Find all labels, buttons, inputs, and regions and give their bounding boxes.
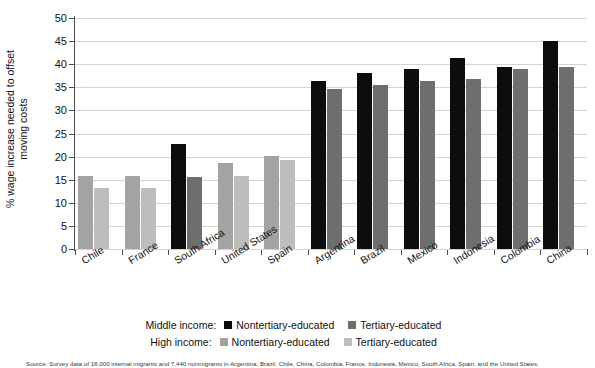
x-axis-tick-mark	[308, 250, 309, 255]
plot-area	[75, 18, 587, 249]
bar	[311, 81, 326, 249]
y-axis-tick-mark	[69, 226, 74, 227]
y-axis-tick-mark	[69, 249, 74, 250]
chart-container: % wage increase needed to offset moving …	[0, 0, 595, 368]
bar-group	[401, 18, 448, 249]
y-axis-tick-mark	[69, 87, 74, 88]
y-axis-tick-mark	[69, 18, 74, 19]
y-axis-tick-label: 25	[45, 128, 67, 140]
bar	[125, 176, 140, 249]
y-axis-tick-label: 35	[45, 81, 67, 93]
legend-swatch-icon	[224, 321, 232, 329]
bar	[327, 89, 342, 249]
bar-group	[494, 18, 541, 249]
x-axis-tick-mark	[540, 250, 541, 255]
legend-item: Nontertiary-educated	[220, 336, 330, 348]
y-axis-tick-label: 50	[45, 12, 67, 24]
y-axis-title-line-1: % wage increase needed to offset	[4, 50, 17, 208]
y-axis-tick-mark	[69, 203, 74, 204]
legend-item: Tertiary-educated	[344, 336, 437, 348]
legend-row: Middle income:Nontertiary-educatedTertia…	[0, 316, 595, 333]
bar	[280, 160, 295, 249]
y-axis-title-line-2: moving costs	[17, 50, 30, 208]
bar	[404, 69, 419, 249]
bar-group	[540, 18, 587, 249]
y-axis-tick-labels: 05101520253035404550	[41, 0, 67, 368]
bar	[78, 176, 93, 249]
y-axis-tick-mark	[69, 41, 74, 42]
legend-item: Nontertiary-educated	[224, 319, 334, 331]
y-axis-tick-label: 10	[45, 197, 67, 209]
bar	[466, 79, 481, 249]
bar	[543, 41, 558, 249]
x-axis-tick-mark	[447, 250, 448, 255]
legend-item-label: Tertiary-educated	[356, 336, 437, 348]
legend-swatch-icon	[220, 338, 228, 346]
legend-item-label: Nontertiary-educated	[236, 319, 334, 331]
bar-group	[308, 18, 355, 249]
y-axis-tick-mark	[69, 110, 74, 111]
y-axis-tick-mark	[69, 134, 74, 135]
x-axis-tick-mark	[168, 250, 169, 255]
x-axis-tick-mark	[401, 250, 402, 255]
legend-row-title: Middle income:	[146, 319, 217, 331]
legend-row: High income:Nontertiary-educatedTertiary…	[0, 333, 595, 350]
bar	[171, 144, 186, 249]
x-axis-tick-mark	[75, 250, 76, 255]
y-axis-tick-label: 45	[45, 35, 67, 47]
legend-item-label: Nontertiary-educated	[232, 336, 330, 348]
bar	[420, 81, 435, 249]
y-axis-tick-mark	[69, 64, 74, 65]
legend-swatch-icon	[344, 338, 352, 346]
y-axis-tick-label: 15	[45, 174, 67, 186]
footnote: Source: Survey data of 18,000 internal m…	[26, 360, 586, 368]
legend-item: Tertiary-educated	[348, 319, 441, 331]
legend-row-title: High income:	[150, 336, 211, 348]
bar	[373, 85, 388, 249]
x-axis-tick-mark	[354, 250, 355, 255]
x-axis-tick-mark	[122, 250, 123, 255]
bar	[357, 73, 372, 249]
bar	[94, 188, 109, 249]
bar	[450, 58, 465, 249]
y-axis-tick-label: 20	[45, 151, 67, 163]
legend-item-label: Tertiary-educated	[360, 319, 441, 331]
y-axis-tick-label: 0	[45, 243, 67, 255]
legend: Middle income:Nontertiary-educatedTertia…	[0, 316, 595, 350]
y-axis-tick-label: 30	[45, 104, 67, 116]
bar-group	[261, 18, 308, 249]
bar-group	[447, 18, 494, 249]
bar-group	[354, 18, 401, 249]
y-axis-tick-mark	[69, 180, 74, 181]
bar-group	[168, 18, 215, 249]
legend-swatch-icon	[348, 321, 356, 329]
bar	[497, 67, 512, 249]
x-axis-tick-mark	[494, 250, 495, 255]
bar-group	[215, 18, 262, 249]
y-axis-tick-label: 5	[45, 220, 67, 232]
y-axis-tick-mark	[69, 157, 74, 158]
y-axis-tick-label: 40	[45, 58, 67, 70]
y-axis-title: % wage increase needed to offset moving …	[0, 0, 34, 258]
x-axis-tick-mark	[587, 250, 588, 255]
x-axis-tick-mark	[215, 250, 216, 255]
bar-group	[122, 18, 169, 249]
bar	[513, 69, 528, 249]
bar	[559, 67, 574, 249]
x-axis-tick-mark	[261, 250, 262, 255]
bar-group	[75, 18, 122, 249]
